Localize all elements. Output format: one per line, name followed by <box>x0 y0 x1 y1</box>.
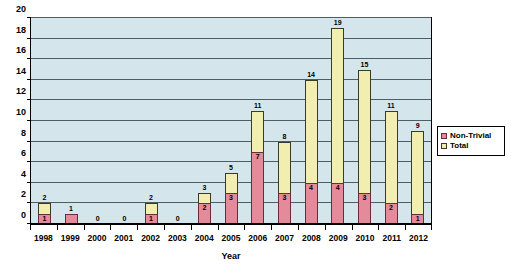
x-axis-label: 2007 <box>271 231 298 245</box>
bar-group[interactable]: 0 <box>84 18 111 224</box>
x-tick-mark <box>30 225 31 230</box>
bars-layer: 21110021032531178314419415311291 <box>31 18 431 224</box>
bar-total[interactable] <box>411 131 424 224</box>
x-axis-label: 1998 <box>30 231 57 245</box>
x-axis-title: Year <box>30 251 432 261</box>
y-tick-label: 6 <box>21 149 26 158</box>
x-tick-mark <box>110 225 111 230</box>
x-axis-label: 2000 <box>84 231 111 245</box>
bar-value-label-total: 3 <box>202 184 206 191</box>
x-axis-label: 1999 <box>57 231 84 245</box>
x-axis-label: 2003 <box>164 231 191 245</box>
y-tick-label: 18 <box>16 25 26 34</box>
bar-group[interactable]: 112 <box>378 18 405 224</box>
bar-group[interactable]: 153 <box>351 18 378 224</box>
x-axis-label: 2005 <box>218 231 245 245</box>
bar-non-trivial[interactable] <box>251 152 264 224</box>
bar-group[interactable]: 194 <box>324 18 351 224</box>
legend-swatch-icon-non-trivial <box>441 133 447 139</box>
x-axis-label: 2008 <box>298 231 325 245</box>
y-tick-label: 4 <box>21 169 26 178</box>
bar-group[interactable]: 144 <box>298 18 325 224</box>
x-tick-mark <box>405 225 406 230</box>
bar-value-label-total: 0 <box>122 215 126 222</box>
x-axis-labels: 1998199920002001200220032004200520062007… <box>30 231 432 245</box>
bar-value-label-non-trivial: 3 <box>282 194 286 201</box>
bar-value-label-total: 1 <box>69 205 73 212</box>
bar-group[interactable]: 21 <box>138 18 165 224</box>
bar-value-label-total: 15 <box>360 61 368 68</box>
bar-value-label-non-trivial: 1 <box>149 215 153 222</box>
bar-value-label-total: 11 <box>254 102 261 109</box>
bar-value-label-non-trivial: 7 <box>256 153 260 160</box>
legend: Non-Trivial Total <box>437 126 505 156</box>
bar-value-label-total: 19 <box>334 19 342 26</box>
x-axis-label: 2006 <box>244 231 271 245</box>
y-tick-label: 2 <box>21 190 26 199</box>
bar-group[interactable]: 0 <box>111 18 138 224</box>
bar-value-label-non-trivial: 1 <box>416 215 420 222</box>
x-tick-mark <box>431 225 432 230</box>
legend-label-total: Total <box>450 142 469 150</box>
bar-value-label-total: 8 <box>282 133 286 140</box>
bar-group[interactable]: 21 <box>31 18 58 224</box>
x-tick-mark <box>84 225 85 230</box>
bar-value-label-non-trivial: 4 <box>336 184 340 191</box>
bar-value-label-non-trivial: 4 <box>309 184 313 191</box>
x-axis-label: 2002 <box>137 231 164 245</box>
x-axis-label: 2004 <box>191 231 218 245</box>
x-tick-mark <box>57 225 58 230</box>
x-tick-mark <box>352 225 353 230</box>
bar-group[interactable]: 83 <box>271 18 298 224</box>
bar-value-label-total: 0 <box>96 215 100 222</box>
x-axis-label: 2011 <box>378 231 405 245</box>
bar-value-label-total: 2 <box>149 194 153 201</box>
bar-value-label-total: 2 <box>42 194 46 201</box>
bar-value-label-total: 14 <box>307 71 315 78</box>
plot-area: 02468101214161820 2111002103253117831441… <box>30 17 432 225</box>
bar-group[interactable]: 11 <box>58 18 85 224</box>
y-tick-label: 10 <box>16 108 26 117</box>
bar-value-label-total: 11 <box>387 102 394 109</box>
y-tick-label: 12 <box>16 87 26 96</box>
x-tick-mark <box>244 225 245 230</box>
bar-group[interactable]: 117 <box>244 18 271 224</box>
x-tick-mark <box>378 225 379 230</box>
x-tick-mark <box>164 225 165 230</box>
x-axis-label: 2012 <box>405 231 432 245</box>
x-tick-mark <box>218 225 219 230</box>
x-axis-label: 2001 <box>110 231 137 245</box>
bar-value-label-non-trivial: 3 <box>362 194 366 201</box>
y-tick-label: 8 <box>21 128 26 137</box>
bar-chart: 02468101214161820 2111002103253117831441… <box>0 0 511 276</box>
bar-group[interactable]: 0 <box>164 18 191 224</box>
bar-value-label-non-trivial: 2 <box>202 204 206 211</box>
bar-value-label-non-trivial: 2 <box>389 204 393 211</box>
legend-item-non-trivial[interactable]: Non-Trivial <box>441 132 501 140</box>
x-tick-mark <box>271 225 272 230</box>
bar-value-label-non-trivial: 1 <box>42 215 46 222</box>
bar-group[interactable]: 53 <box>218 18 245 224</box>
legend-swatch-icon-total <box>441 143 447 149</box>
bar-value-label-non-trivial: 3 <box>229 194 233 201</box>
x-tick-mark <box>137 225 138 230</box>
x-tick-mark <box>191 225 192 230</box>
bar-value-label-total: 5 <box>229 164 233 171</box>
y-tick-label: 20 <box>16 5 26 14</box>
x-axis-line <box>31 223 431 224</box>
bar-group[interactable]: 91 <box>404 18 431 224</box>
y-tick-label: 14 <box>16 66 26 75</box>
bar-value-label-total: 0 <box>176 215 180 222</box>
bar-group[interactable]: 32 <box>191 18 218 224</box>
x-axis-label: 2009 <box>325 231 352 245</box>
bar-value-label-total: 9 <box>416 122 420 129</box>
x-tick-mark <box>325 225 326 230</box>
x-axis-label: 2010 <box>352 231 379 245</box>
y-tick-label: 16 <box>16 46 26 55</box>
legend-item-total[interactable]: Total <box>441 142 501 150</box>
y-tick-label: 0 <box>21 211 26 220</box>
x-tick-mark <box>298 225 299 230</box>
legend-label-non-trivial: Non-Trivial <box>450 132 491 140</box>
